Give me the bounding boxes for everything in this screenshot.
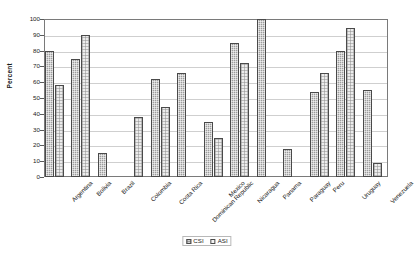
bar-asi [134,117,143,177]
asi-swatch-icon [211,239,216,244]
bar-asi [373,163,382,177]
legend-label: CSI [193,238,203,244]
bar-csi [310,92,319,177]
bar-csi [71,59,80,178]
x-axis-label: Bolivia [95,180,112,197]
y-axis-title: Percent [6,75,13,89]
bar-chart-figure: Percent 1009080706050403020100 Argentina… [0,0,414,264]
bar-csi [230,43,239,177]
y-axis-tick-label: 40 [18,111,40,117]
bar-asi [161,107,170,177]
bar-csi [363,90,372,177]
bar-group [44,19,70,177]
y-axis-tick-label: 50 [18,95,40,101]
legend-item: CSI [186,238,203,244]
y-axis-tick-label: 70 [18,63,40,69]
bar-group [123,19,149,177]
bar-group [282,19,308,177]
x-axis-label: Brazil [121,180,136,195]
legend-label: ASI [218,238,228,244]
bar-asi [55,85,64,177]
bar-csi [45,51,54,177]
chart-legend: CSIASI [182,236,231,246]
bar-asi [346,28,355,177]
x-axis-label: Costa Rica [178,180,204,206]
x-axis-category-labels: ArgentinaBoliviaBrazilColombiaCosta Rica… [44,178,388,242]
bar-asi [214,138,223,178]
y-axis-tick-label: 30 [18,127,40,133]
bar-group [70,19,96,177]
bar-group [256,19,282,177]
y-axis-tick-label: 10 [18,158,40,164]
bar-asi [240,63,249,177]
bars-layer [44,19,388,177]
csi-swatch-icon [186,239,191,244]
bar-asi [320,73,329,177]
bar-csi [151,79,160,177]
bar-group [176,19,202,177]
bar-group [97,19,123,177]
x-axis-label: Nicaragua [257,180,281,204]
bar-csi [204,122,213,177]
x-axis-label: Paraguay [309,180,332,203]
y-axis-tick-label: 80 [18,48,40,54]
x-axis-label: Venezuela [389,180,414,205]
bar-csi [336,51,345,177]
bar-group [335,19,361,177]
y-axis-tick-label: 0 [18,174,40,180]
y-axis-tick-label: 90 [18,32,40,38]
bar-group [309,19,335,177]
bar-group [203,19,229,177]
bar-csi [283,149,292,177]
legend-item: ASI [211,238,228,244]
bar-group [150,19,176,177]
x-axis-label: Uruguay [361,180,382,201]
y-axis-tick-label: 100 [18,16,40,22]
x-axis-label: Peru [331,180,345,194]
bar-group [229,19,255,177]
x-axis-label: Colombia [150,180,173,203]
bar-csi [177,73,186,177]
bar-group [362,19,388,177]
bar-csi [257,19,266,177]
bar-csi [98,153,107,177]
y-axis-tick-label: 20 [18,142,40,148]
x-axis-label: Panama [281,180,302,201]
y-axis-tick-label: 60 [18,79,40,85]
bar-asi [81,35,90,177]
x-axis-label: Argentina [71,180,94,203]
